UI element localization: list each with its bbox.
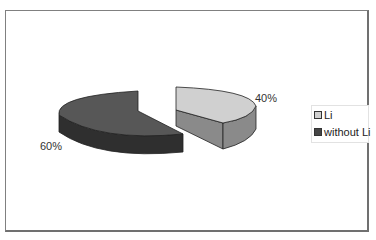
legend: Li without Li (311, 105, 369, 143)
legend-swatch-li (314, 111, 322, 119)
legend-item-without-li: without Li (314, 126, 370, 138)
legend-label: without Li (324, 126, 370, 138)
legend-label: Li (324, 109, 333, 121)
legend-swatch-without-li (314, 128, 322, 136)
data-label-without-li: 60% (40, 140, 62, 152)
legend-item-li: Li (314, 109, 333, 121)
data-label-li: 40% (255, 92, 277, 104)
